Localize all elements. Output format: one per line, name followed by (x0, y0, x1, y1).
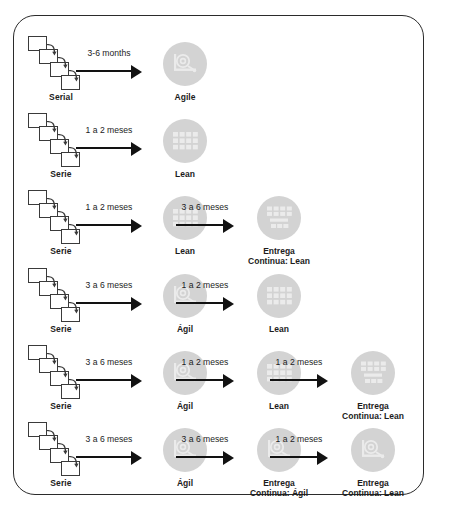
transition-duration-label: 1 a 2 meses (176, 280, 234, 290)
kanban-board-icon (170, 126, 200, 156)
curved-arrow-icon (57, 366, 69, 380)
transition-duration-label: 3 a 6 meses (176, 434, 234, 444)
practice-node-label: Ágil (142, 324, 228, 334)
arrow-head (223, 297, 234, 311)
transition-duration-label: 1 a 2 meses (76, 125, 142, 135)
diagram-row: Serie3 a 6 mesesÁgil1 a 2 mesesLean (14, 266, 425, 342)
arrow-line (76, 224, 132, 226)
practice-node: Entrega Continua: Lean (330, 351, 416, 421)
diagram-row: Serial3-6 monthsAgile (14, 34, 425, 110)
arrow-line (76, 70, 132, 72)
arrow-head (317, 374, 328, 388)
continuous-delivery-lean-icon (264, 203, 294, 233)
curved-arrow-icon (46, 198, 58, 212)
source-node-label: Serial (26, 92, 96, 102)
arrow-head (223, 374, 234, 388)
practice-node-bubble (163, 119, 207, 163)
curved-arrow-icon (46, 276, 58, 290)
transition-arrow: 3 a 6 meses (76, 367, 142, 393)
practice-node-bubble (351, 351, 395, 395)
diagram-row: Serie1 a 2 mesesLean (14, 111, 425, 187)
transition-arrow: 3 a 6 meses (76, 290, 142, 316)
arrow-line (76, 379, 132, 381)
transition-arrow: 1 a 2 meses (76, 135, 142, 161)
agile-gear-icon (170, 49, 200, 79)
practice-node: Lean (142, 119, 228, 179)
practice-node-label: Lean (236, 401, 322, 411)
arrow-head (317, 451, 328, 465)
curved-arrow-icon (57, 443, 69, 457)
arrow-line (76, 147, 132, 149)
transition-arrow: 1 a 2 meses (76, 212, 142, 238)
curved-arrow-icon (46, 44, 58, 58)
practice-node-label: Ágil (142, 401, 228, 411)
arrow-head (131, 297, 142, 311)
transition-arrow: 1 a 2 meses (176, 367, 234, 393)
practice-node-label: Lean (142, 169, 228, 179)
arrow-head (131, 142, 142, 156)
practice-node: Entrega Continua: Lean (236, 196, 322, 266)
arrow-line (76, 302, 132, 304)
diagram-row: Serie3 a 6 mesesÁgil3 a 6 mesesEntrega C… (14, 420, 425, 496)
curved-arrow-icon (46, 121, 58, 135)
transition-arrow: 1 a 2 meses (270, 367, 328, 393)
diagram-frame: Serial3-6 monthsAgileSerie1 a 2 mesesLea… (13, 15, 424, 495)
transition-duration-label: 3 a 6 meses (176, 202, 234, 212)
arrow-line (176, 224, 224, 226)
practice-node-label: Lean (142, 246, 228, 256)
arrow-head (131, 65, 142, 79)
kanban-board-icon (264, 281, 294, 311)
transition-arrow: 1 a 2 meses (176, 290, 234, 316)
arrow-head (131, 219, 142, 233)
transition-duration-label: 3 a 6 meses (76, 280, 142, 290)
transition-duration-label: 3-6 months (76, 48, 142, 58)
curved-arrow-icon (57, 289, 69, 303)
transition-duration-label: 1 a 2 meses (270, 357, 328, 367)
source-node-label: Serie (26, 478, 96, 488)
transition-arrow: 3 a 6 meses (176, 212, 234, 238)
practice-node-label: Entrega Continua: Lean (330, 401, 416, 421)
practice-node-label: Entrega Continua: Ágil (236, 478, 322, 498)
arrow-line (176, 456, 224, 458)
arrow-line (176, 379, 224, 381)
arrow-line (270, 456, 318, 458)
transition-arrow: 3 a 6 meses (176, 444, 234, 470)
source-node-label: Serie (26, 401, 96, 411)
arrow-line (270, 379, 318, 381)
transition-duration-label: 1 a 2 meses (270, 434, 328, 444)
curved-arrow-icon (57, 57, 69, 71)
transition-arrow: 3-6 months (76, 58, 142, 84)
transition-duration-label: 3 a 6 meses (76, 357, 142, 367)
practice-node: Agile (142, 42, 228, 102)
arrow-head (223, 451, 234, 465)
diagram-row: Serie1 a 2 mesesLean3 a 6 mesesEntrega C… (14, 188, 425, 264)
transition-duration-label: 1 a 2 meses (176, 357, 234, 367)
continuous-delivery-agile-icon (358, 435, 388, 465)
practice-node-label: Lean (236, 324, 322, 334)
curved-arrow-icon (46, 353, 58, 367)
source-node-label: Serie (26, 169, 96, 179)
curved-arrow-icon (46, 430, 58, 444)
curved-arrow-icon (57, 134, 69, 148)
practice-node-label: Entrega Continua: Lean (330, 478, 416, 498)
practice-node: Lean (236, 274, 322, 334)
transition-arrow: 3 a 6 meses (76, 444, 142, 470)
source-node-label: Serie (26, 246, 96, 256)
practice-node-label: Entrega Continua: Lean (236, 246, 322, 266)
source-node-label: Serie (26, 324, 96, 334)
practice-node-label: Agile (142, 92, 228, 102)
practice-node-bubble (351, 428, 395, 472)
curved-arrow-icon (57, 211, 69, 225)
transition-duration-label: 1 a 2 meses (76, 202, 142, 212)
diagram-row: Serie3 a 6 mesesÁgil1 a 2 mesesLean1 a 2… (14, 343, 425, 419)
arrow-head (131, 374, 142, 388)
continuous-delivery-lean-icon (358, 358, 388, 388)
practice-node: Entrega Continua: Lean (330, 428, 416, 498)
transition-duration-label: 3 a 6 meses (76, 434, 142, 444)
practice-node-bubble (257, 196, 301, 240)
practice-node-bubble (257, 274, 301, 318)
practice-node-label: Ágil (142, 478, 228, 488)
arrow-line (76, 456, 132, 458)
arrow-head (131, 451, 142, 465)
practice-node-bubble (163, 42, 207, 86)
